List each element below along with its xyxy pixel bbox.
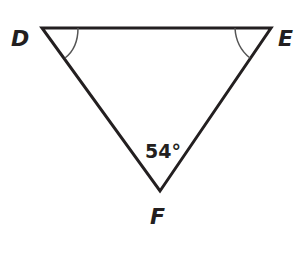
angle-arc-e bbox=[235, 28, 250, 58]
vertex-label-e: E bbox=[278, 26, 293, 51]
triangle-diagram: D E F 54° bbox=[0, 0, 302, 260]
angle-arc-d bbox=[65, 28, 78, 58]
angle-label-f: 54° bbox=[145, 140, 181, 162]
triangle-def bbox=[42, 28, 271, 191]
vertex-label-d: D bbox=[11, 26, 29, 51]
vertex-label-f: F bbox=[150, 204, 165, 229]
